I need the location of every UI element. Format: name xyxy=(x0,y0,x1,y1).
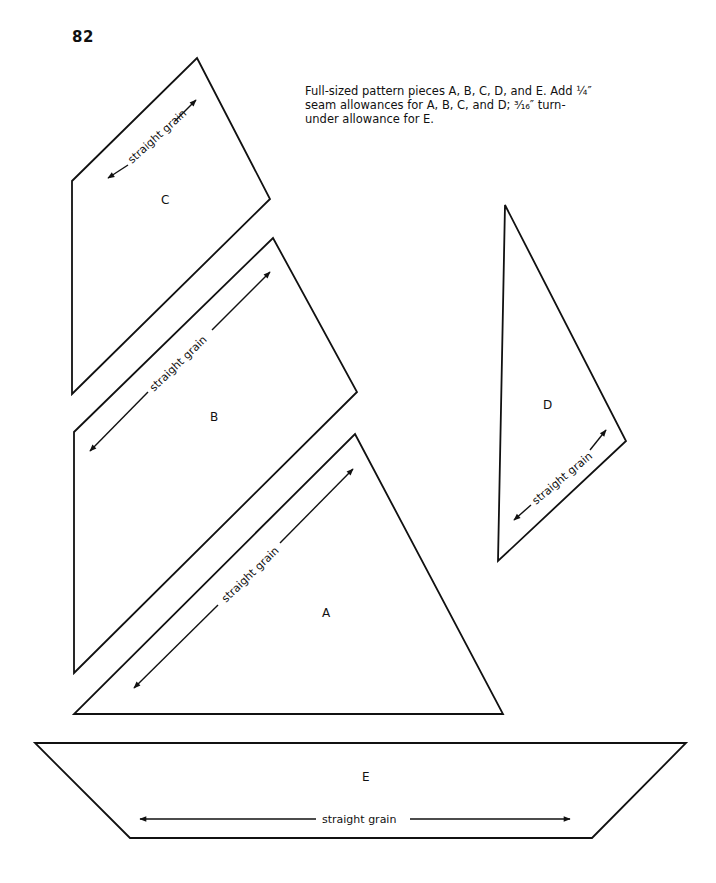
piece-c-label: C xyxy=(161,193,169,207)
piece-d-outline xyxy=(498,205,626,561)
piece-c-outline xyxy=(72,58,270,394)
piece-a-label: A xyxy=(322,606,331,620)
piece-c-grain-label: straight grain xyxy=(125,107,189,166)
piece-a-outline xyxy=(74,434,503,714)
piece-d-grain-arrow: straight grain xyxy=(514,430,606,520)
piece-c-grain-arrow: straight grain xyxy=(108,100,196,178)
piece-a-grain-label: straight grain xyxy=(219,544,282,605)
piece-e-grain-label: straight grain xyxy=(322,813,396,826)
pattern-piece-d: straight grain D xyxy=(498,205,626,561)
pattern-piece-e: straight grain E xyxy=(35,743,686,838)
piece-e-grain-arrow: straight grain xyxy=(140,813,570,826)
piece-a-grain-arrow: straight grain xyxy=(134,469,353,688)
pattern-piece-a: straight grain A xyxy=(74,434,503,714)
piece-b-label: B xyxy=(210,410,218,424)
pattern-diagram: straight grain C straight grain B straig… xyxy=(0,0,716,883)
pattern-piece-c: straight grain C xyxy=(72,58,270,394)
piece-d-label: D xyxy=(543,398,552,412)
piece-b-grain-label: straight grain xyxy=(147,333,210,394)
piece-e-label: E xyxy=(362,770,370,784)
piece-b-grain-arrow: straight grain xyxy=(90,272,270,451)
